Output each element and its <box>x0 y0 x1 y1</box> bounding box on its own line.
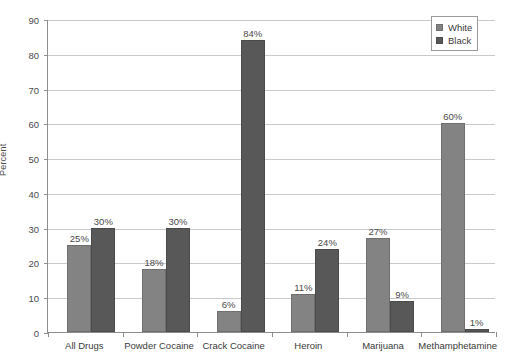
y-axis-tick-label: 0 <box>0 328 39 339</box>
legend: White Black <box>431 16 478 51</box>
bar-group: 18%30% <box>142 20 190 332</box>
y-axis-tick-mark <box>44 20 48 21</box>
x-axis-label-crack-cocaine: Crack Cocaine <box>203 340 265 351</box>
y-axis-tick-label: 90 <box>0 15 39 26</box>
y-axis-tick-label: 80 <box>0 49 39 60</box>
x-axis-label-marijuana: Marijuana <box>362 340 404 351</box>
y-axis-tick-label: 50 <box>0 154 39 165</box>
bar-group: 25%30% <box>67 20 115 332</box>
x-axis-tick-mark <box>347 332 348 337</box>
x-axis-label-powder-cocaine: Powder Cocaine <box>124 340 194 351</box>
y-axis-tick-label: 30 <box>0 223 39 234</box>
bar-group: 11%24% <box>291 20 339 332</box>
y-axis-tick-label: 40 <box>0 188 39 199</box>
bar-value-label: 1% <box>470 317 484 328</box>
x-axis-tick-mark <box>123 332 124 337</box>
bar-black-all-drugs: 30% <box>91 228 115 332</box>
bar-black-heroin: 24% <box>315 249 339 332</box>
x-axis-tick-mark <box>197 332 198 337</box>
plot-area: 25%30%18%30%6%84%11%24%27%9%60%1% <box>47 20 495 333</box>
bar-white-methamphetamine: 60% <box>441 123 465 332</box>
bar-white-powder-cocaine: 18% <box>142 269 166 332</box>
y-axis-tick-mark <box>44 263 48 264</box>
bar-black-methamphetamine: 1% <box>465 329 489 332</box>
bar-group: 27%9% <box>366 20 414 332</box>
bar-group: 6%84% <box>217 20 265 332</box>
bar-value-label: 30% <box>94 216 113 227</box>
y-axis-tick-mark <box>44 55 48 56</box>
bar-black-crack-cocaine: 84% <box>241 40 265 332</box>
bar-white-crack-cocaine: 6% <box>217 311 241 332</box>
bar-value-label: 30% <box>168 216 187 227</box>
y-axis-tick-label: 60 <box>0 119 39 130</box>
bar-black-powder-cocaine: 30% <box>166 228 190 332</box>
legend-swatch-white-icon <box>436 24 443 31</box>
bar-value-label: 84% <box>243 28 262 39</box>
legend-label-white: White <box>448 22 472 33</box>
x-axis-label-methamphetamine: Methamphetamine <box>418 340 497 351</box>
bar-value-label: 25% <box>70 233 89 244</box>
x-axis-label-heroin: Heroin <box>294 340 322 351</box>
y-axis-tick-label: 70 <box>0 84 39 95</box>
y-axis-tick-label: 20 <box>0 258 39 269</box>
y-axis-tick-mark <box>44 229 48 230</box>
y-axis-tick-mark <box>44 124 48 125</box>
y-axis-tick-label: 10 <box>0 293 39 304</box>
y-axis-tick-mark <box>44 194 48 195</box>
bar-white-all-drugs: 25% <box>67 245 91 332</box>
legend-swatch-black-icon <box>436 37 443 44</box>
bar-value-label: 24% <box>318 237 337 248</box>
bar-white-heroin: 11% <box>291 294 315 332</box>
y-axis-tick-mark <box>44 159 48 160</box>
bar-white-marijuana: 27% <box>366 238 390 332</box>
x-axis-tick-mark <box>421 332 422 337</box>
x-axis-tick-mark <box>272 332 273 337</box>
bar-value-label: 18% <box>144 257 163 268</box>
y-axis-tick-mark <box>44 298 48 299</box>
bar-chart: Percent 0102030405060708090 25%30%18%30%… <box>0 0 506 363</box>
legend-item-black: Black <box>436 34 472 46</box>
bar-value-label: 27% <box>368 226 387 237</box>
bar-value-label: 6% <box>222 299 236 310</box>
legend-label-black: Black <box>448 35 471 46</box>
x-axis-tick-mark <box>496 332 497 337</box>
y-axis-tick-mark <box>44 90 48 91</box>
x-axis-tick-mark <box>48 332 49 337</box>
legend-item-white: White <box>436 21 472 33</box>
bar-group: 60%1% <box>441 20 489 332</box>
x-axis-label-all-drugs: All Drugs <box>65 340 104 351</box>
bar-value-label: 11% <box>294 282 312 293</box>
bar-value-label: 9% <box>395 289 409 300</box>
bar-value-label: 60% <box>443 111 462 122</box>
bar-black-marijuana: 9% <box>390 301 414 332</box>
